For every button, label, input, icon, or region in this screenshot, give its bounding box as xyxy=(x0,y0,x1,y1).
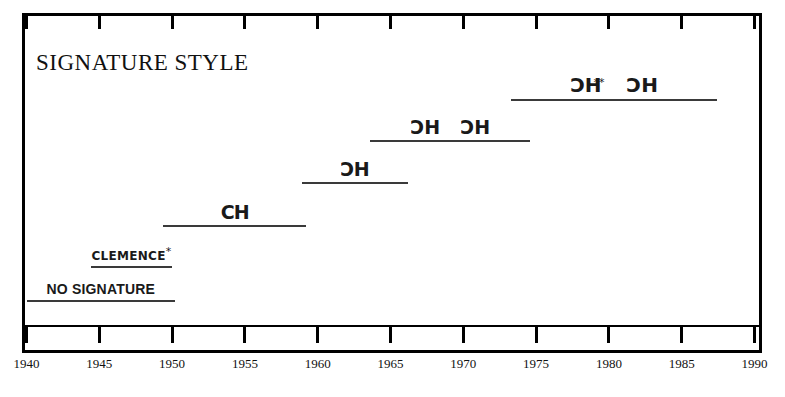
axis-tick-bottom xyxy=(25,327,28,343)
axis-tick-bottom xyxy=(680,327,683,343)
signature-style-timeline-chart: 1940194519501955196019651970197519801985… xyxy=(0,0,785,397)
timeline-bar-label: CH xyxy=(221,201,249,223)
timeline-bar-label: CHCH xyxy=(415,116,485,138)
timeline-bar xyxy=(302,182,408,184)
axis-tick-bottom xyxy=(607,327,610,343)
axis-tick-bottom xyxy=(171,327,174,343)
axis-tick-top xyxy=(607,13,610,29)
timeline-bar xyxy=(91,266,173,268)
timeline-bar-label: CLEMENCE* xyxy=(91,245,171,264)
axis-tick-label: 1990 xyxy=(742,356,768,372)
timeline-bar-label: NO SIGNATURE xyxy=(46,280,155,298)
axis-tick-top xyxy=(462,13,465,29)
axis-tick-label: 1960 xyxy=(305,356,331,372)
axis-tick-label: 1965 xyxy=(378,356,404,372)
axis-tick-label: 1975 xyxy=(523,356,549,372)
axis-tick-top xyxy=(98,13,101,29)
axis-tick-bottom xyxy=(98,327,101,343)
axis-tick-top xyxy=(316,13,319,29)
axis-tick-label: 1950 xyxy=(159,356,185,372)
axis-tick-top xyxy=(535,13,538,29)
axis-tick-top xyxy=(243,13,246,29)
axis-tick-label: 1970 xyxy=(450,356,476,372)
axis-tick-bottom xyxy=(753,327,756,343)
timeline-bar xyxy=(27,300,176,302)
axis-tick-top xyxy=(753,13,756,29)
axis-tick-bottom xyxy=(243,327,246,343)
axis-tick-label: 1985 xyxy=(669,356,695,372)
axis-tick-label: 1980 xyxy=(596,356,622,372)
axis-tick-top xyxy=(25,13,28,29)
timeline-bar xyxy=(511,99,716,101)
axis-tick-label: 1955 xyxy=(232,356,258,372)
axis-baseline xyxy=(22,325,762,327)
timeline-bar xyxy=(370,140,530,142)
axis-tick-bottom xyxy=(316,327,319,343)
axis-tick-top xyxy=(171,13,174,29)
axis-tick-bottom xyxy=(389,327,392,343)
axis-tick-bottom xyxy=(462,327,465,343)
axis-tick-label: 1945 xyxy=(86,356,112,372)
timeline-bar xyxy=(163,225,306,227)
axis-tick-top xyxy=(389,13,392,29)
axis-tick-top xyxy=(680,13,683,29)
axis-tick-bottom xyxy=(535,327,538,343)
chart-title: SIGNATURE STYLE xyxy=(36,50,249,76)
axis-tick-label: 1940 xyxy=(14,356,40,372)
timeline-bar-label: CH**CH xyxy=(578,73,650,97)
timeline-bar-label: CH xyxy=(345,158,365,180)
